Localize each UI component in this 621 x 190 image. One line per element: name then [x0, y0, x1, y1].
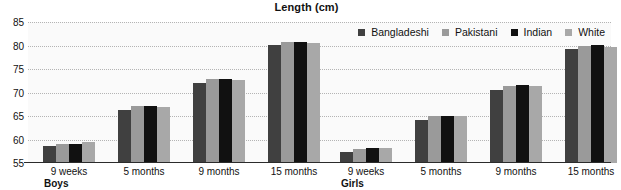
bar[interactable] [379, 148, 392, 163]
panel-lead-label-spacer [325, 166, 335, 190]
bar[interactable] [454, 116, 467, 163]
y-axis-tick-label: 65 [0, 111, 24, 122]
x-axis-tick-group: 15 months [263, 166, 325, 190]
bar[interactable] [232, 80, 245, 163]
legend-item[interactable]: Indian [511, 26, 553, 38]
bar[interactable] [157, 107, 170, 163]
x-axis-labels: 9 weeksBoys5 months9 months15 months9 we… [28, 166, 611, 190]
x-axis-tick-label: 9 months [198, 166, 239, 190]
bar-group [38, 22, 100, 163]
bar[interactable] [131, 106, 144, 163]
legend-swatch-icon [358, 29, 365, 36]
bar[interactable] [503, 86, 516, 163]
bar[interactable] [206, 79, 219, 163]
y-axis-tick-label: 75 [0, 64, 24, 75]
chart-panel-girls [325, 22, 621, 163]
bar[interactable] [578, 46, 591, 163]
bar-group [263, 22, 325, 163]
bar[interactable] [43, 146, 56, 163]
bar[interactable] [82, 142, 95, 163]
y-axis-tick-labels: 55606570758085 [0, 22, 24, 163]
y-axis-tick-label: 60 [0, 134, 24, 145]
chart-panel-boys [28, 22, 325, 163]
panel-lead-spacer [28, 22, 38, 163]
bar[interactable] [56, 144, 69, 163]
bar-group [113, 22, 175, 163]
legend-item-label: Pakistani [455, 26, 498, 38]
legend-item-label: Bangladeshi [371, 26, 429, 38]
legend-item[interactable]: White [565, 26, 605, 38]
bar[interactable] [144, 106, 157, 163]
y-axis-tick-label: 70 [0, 87, 24, 98]
panel-name-label: Girls [341, 178, 364, 190]
x-axis-panel-girls: 9 weeksGirls5 months9 months15 months [325, 166, 621, 190]
bar-group [560, 22, 621, 163]
bar[interactable] [529, 86, 542, 163]
x-axis-tick-group: 9 months [485, 166, 547, 190]
x-axis-tick-label: 5 months [420, 166, 461, 190]
bar[interactable] [366, 148, 379, 164]
legend-item[interactable]: Pakistani [442, 26, 498, 38]
bar[interactable] [441, 116, 454, 163]
panel-name-label: Boys [44, 178, 68, 190]
bar[interactable] [193, 83, 206, 163]
bar-group [188, 22, 250, 163]
y-axis-tick-label: 85 [0, 17, 24, 28]
bar-group [410, 22, 472, 163]
bar[interactable] [281, 42, 294, 163]
bar[interactable] [353, 149, 366, 163]
x-axis-tick-label: 15 months [271, 166, 318, 190]
x-axis-line [24, 162, 611, 163]
x-axis-tick-label: 5 months [123, 166, 164, 190]
legend-item[interactable]: Bangladeshi [358, 26, 429, 38]
chart-legend: BangladeshiPakistaniIndianWhite [358, 26, 605, 38]
bar[interactable] [294, 42, 307, 163]
legend-swatch-icon [565, 29, 572, 36]
legend-swatch-icon [511, 29, 518, 36]
bar[interactable] [490, 90, 503, 163]
x-axis-tick-label: 15 months [568, 166, 615, 190]
chart-title: Length (cm) [0, 1, 613, 13]
bar[interactable] [118, 110, 131, 163]
x-axis-tick-group: 5 months [410, 166, 472, 190]
bar[interactable] [604, 47, 617, 163]
legend-swatch-icon [442, 29, 449, 36]
x-axis-tick-group: 15 months [560, 166, 621, 190]
panel-lead-spacer [325, 22, 335, 163]
bar[interactable] [428, 116, 441, 163]
panel-lead-label-spacer [28, 166, 38, 190]
bar[interactable] [591, 45, 604, 163]
bar-groups [28, 22, 611, 163]
plot-area [28, 22, 611, 163]
x-axis-panel-boys: 9 weeksBoys5 months9 months15 months [28, 166, 325, 190]
x-axis-tick-group: 9 weeksBoys [38, 166, 100, 190]
y-axis-tick-label: 80 [0, 40, 24, 51]
y-axis-tick-label: 55 [0, 158, 24, 169]
x-axis-tick-group: 9 weeksGirls [335, 166, 397, 190]
x-axis-tick-label: 9 months [495, 166, 536, 190]
bar-group [485, 22, 547, 163]
legend-item-label: White [578, 26, 605, 38]
bar-group [335, 22, 397, 163]
bar[interactable] [307, 43, 320, 163]
x-axis-tick-group: 9 months [188, 166, 250, 190]
x-axis-tick-group: 5 months [113, 166, 175, 190]
bar[interactable] [415, 120, 428, 163]
bar[interactable] [69, 144, 82, 163]
legend-item-label: Indian [524, 26, 553, 38]
bar[interactable] [516, 85, 529, 163]
bar[interactable] [219, 79, 232, 163]
bar[interactable] [565, 49, 578, 163]
bar[interactable] [268, 45, 281, 163]
